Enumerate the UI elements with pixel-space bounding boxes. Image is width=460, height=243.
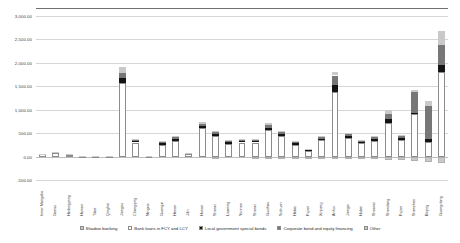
- bar-segment: [225, 140, 232, 141]
- bar-group[interactable]: [262, 16, 275, 180]
- bar-segment: [292, 142, 299, 143]
- bar-segment: [159, 141, 166, 142]
- y-axis-tick-label: -500.00: [17, 178, 32, 183]
- bar-segment: [278, 136, 285, 157]
- x-axis-tick-label: Shenzhen: [412, 199, 416, 216]
- bar-group[interactable]: [289, 16, 302, 180]
- bar-group[interactable]: [49, 16, 62, 180]
- bar-segment: [411, 90, 418, 93]
- x-axis-tick-label: Sichuan: [279, 202, 283, 216]
- bar-group[interactable]: [395, 16, 408, 180]
- bar-group[interactable]: [342, 16, 355, 180]
- legend-swatch-icon: [199, 226, 203, 230]
- bar-segment-negative: [425, 157, 432, 163]
- bar-segment: [212, 132, 219, 133]
- bar-group[interactable]: [421, 16, 434, 180]
- bar-segment: [371, 139, 378, 141]
- legend-label: Local government special bonds: [205, 226, 267, 231]
- x-axis-tick-label: Gansu: [53, 205, 57, 216]
- bar-segment: [358, 142, 365, 144]
- y-axis-labels: -500.000.00500.001,000.001,500.002,000.0…: [0, 16, 34, 180]
- x-axis-tick-label: Shaanxi: [372, 202, 376, 216]
- bar-segment: [172, 141, 179, 157]
- bar-segment: [318, 136, 325, 137]
- bar-group[interactable]: [368, 16, 381, 180]
- bar-segment: [425, 106, 432, 139]
- bar-group[interactable]: [116, 16, 129, 180]
- bar-group[interactable]: [182, 16, 195, 180]
- bar-segment-negative: [292, 157, 299, 159]
- x-axis-tick-label: Henan: [173, 205, 177, 216]
- y-axis-tick-label: 2,000.00: [15, 60, 32, 65]
- bar-group[interactable]: [156, 16, 169, 180]
- bar-group[interactable]: [222, 16, 235, 180]
- bar-group[interactable]: [435, 16, 448, 180]
- x-axis-tick-label: Hubei: [359, 206, 363, 216]
- bar-segment: [345, 134, 352, 135]
- x-axis-tick-label: Shanxi: [213, 204, 217, 216]
- stacked-bar-chart: -500.000.00500.001,000.001,500.002,000.0…: [0, 0, 460, 243]
- bar-segment: [239, 140, 246, 141]
- legend-label: Corporate bond and equity financing: [283, 226, 352, 231]
- bar-group[interactable]: [195, 16, 208, 180]
- bar-group[interactable]: [76, 16, 89, 180]
- bar-segment: [398, 138, 405, 140]
- bar-segment: [371, 136, 378, 137]
- bar-group[interactable]: [355, 16, 368, 180]
- bar-group[interactable]: [63, 16, 76, 180]
- x-axis-tick-label: Fujian: [306, 206, 310, 216]
- bar-group[interactable]: [302, 16, 315, 180]
- bar-segment: [385, 119, 392, 123]
- bar-segment-negative: [385, 157, 392, 160]
- bar-segment: [385, 110, 392, 114]
- bar-segment: [305, 149, 312, 150]
- bar-group[interactable]: [275, 16, 288, 180]
- x-axis-tick-label: Shandong: [386, 199, 390, 216]
- bar-group[interactable]: [129, 16, 142, 180]
- bar-group[interactable]: [89, 16, 102, 180]
- legend-swatch-icon: [80, 226, 84, 230]
- y-axis-tick-label: 500.00: [19, 131, 32, 136]
- bar-segment-negative: [411, 157, 418, 162]
- bar-group[interactable]: [102, 16, 115, 180]
- bar-group[interactable]: [315, 16, 328, 180]
- bar-segment: [332, 76, 339, 85]
- bar-segment: [225, 144, 232, 157]
- x-axis-tick-label: Chongqing: [133, 198, 137, 216]
- legend-item[interactable]: Corporate bond and equity financing: [277, 226, 352, 231]
- bar-segment: [425, 101, 432, 106]
- bar-group[interactable]: [209, 16, 222, 180]
- x-axis-tick-label: Jilin: [186, 209, 190, 216]
- bar-segment: [278, 132, 285, 134]
- x-axis-tick-label: Tibet: [93, 208, 97, 216]
- bar-segment: [438, 72, 445, 156]
- bar-segment: [318, 137, 325, 138]
- bar-segment: [159, 143, 166, 145]
- x-axis-tick-label: Jiangsu: [120, 203, 124, 216]
- x-axis-tick-label: Jiangxi: [346, 204, 350, 216]
- legend-label: Bank loans in FCY and LCY: [134, 226, 187, 231]
- bar-segment: [225, 141, 232, 142]
- bar-segment: [371, 137, 378, 138]
- legend-item[interactable]: Other: [364, 226, 381, 231]
- legend-item[interactable]: Bank loans in FCY and LCY: [128, 226, 187, 231]
- bar-group[interactable]: [169, 16, 182, 180]
- legend-swatch-icon: [128, 226, 132, 230]
- bar-group[interactable]: [249, 16, 262, 180]
- bar-segment: [225, 142, 232, 144]
- bar-segment: [132, 139, 139, 140]
- x-axis-tick-label: Anhui: [332, 206, 336, 216]
- bar-segment: [358, 143, 365, 156]
- bar-group[interactable]: [235, 16, 248, 180]
- y-axis-tick-label: 2,500.00: [15, 37, 32, 42]
- bar-group[interactable]: [408, 16, 421, 180]
- legend-item[interactable]: Local government special bonds: [199, 226, 267, 231]
- x-axis-tick-label: Xinjiang: [319, 202, 323, 216]
- bar-group[interactable]: [36, 16, 49, 180]
- bar-segment-negative: [318, 157, 325, 159]
- legend-item[interactable]: Shadow banking: [80, 226, 118, 231]
- bar-group[interactable]: [382, 16, 395, 180]
- bar-group[interactable]: [142, 16, 155, 180]
- bar-segment: [92, 156, 99, 157]
- bar-group[interactable]: [328, 16, 341, 180]
